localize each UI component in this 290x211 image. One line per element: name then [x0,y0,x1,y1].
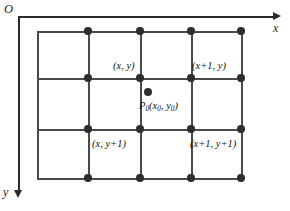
grid-node-dot-r1-c0 [84,74,91,81]
p-zero-label-close-paren: ) [174,100,178,111]
grid-node-dot-r2-c3 [237,125,244,132]
grid-node-dot-r3-c3 [237,174,244,181]
p-zero-label-x-subscript: 0 [157,104,161,113]
grid-line-vertical-3 [191,31,193,178]
p-zero-dot [144,88,152,96]
grid-node-dot-r0-c1 [136,27,143,34]
p-zero-label: P0(x0, y0) [139,101,178,112]
grid-node-dot-r1-c2 [187,74,194,81]
grid-node-dot-r0-c0 [84,27,91,34]
grid-node-dot-r2-c1 [136,125,143,132]
origin-label: O [4,3,13,16]
grid-node-dot-r3-c0 [84,174,91,181]
grid-line-vertical-4 [241,31,243,178]
grid-line-vertical-0 [37,31,39,178]
x-axis-label: x [273,22,278,34]
y-axis-line [18,16,20,193]
grid-node-dot-r3-c1 [136,174,143,181]
arrow-down-icon [14,190,22,198]
grid-node-dot-r2-c0 [84,125,91,132]
y-axis-label: y [3,186,8,198]
vertex-label-x-y-plus-1: (x, y+1) [92,139,126,150]
vertex-label-x-plus-1-y-plus-1: (x+1, y+1) [190,139,236,150]
p-zero-label-subscript: 0 [145,104,149,113]
grid-node-dot-r0-c2 [187,27,194,34]
grid-node-dot-r1-c1 [136,74,143,81]
vertex-label-x-y: (x, y) [113,61,135,72]
arrow-right-icon [273,12,281,20]
grid-node-dot-r2-c2 [187,125,194,132]
grid-node-dot-r3-c2 [187,174,194,181]
grid-node-dot-r0-c3 [237,27,244,34]
x-axis-line [18,16,278,18]
grid-line-vertical-1 [88,31,90,178]
coordinate-grid-figure: O x y (x, y) (x+1, y) (x, y+1) (x+1, y+1… [0,0,290,211]
vertex-label-x-plus-1-y: (x+1, y) [192,61,226,72]
grid-node-dot-r1-c3 [237,74,244,81]
p-zero-label-y-subscript: 0 [171,104,175,113]
